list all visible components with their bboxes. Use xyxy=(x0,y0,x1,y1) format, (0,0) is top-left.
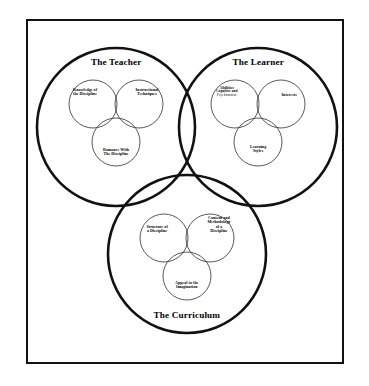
inner-circle-interests xyxy=(257,80,305,128)
inner-circle-appeal-to-the-imagination xyxy=(163,252,211,300)
inner-circle-group xyxy=(69,80,305,300)
major-circle-group xyxy=(37,48,337,333)
inner-circle-romance-with-the-discipline xyxy=(92,118,140,166)
inner-circle-instructional-techniques xyxy=(115,80,163,128)
inner-circle-abilities xyxy=(211,80,259,128)
venn-diagram-graphic xyxy=(0,0,369,386)
inner-circle-learning-styles xyxy=(234,118,282,166)
inner-circle-content-and-methodology-of-a-discipline xyxy=(186,214,234,262)
inner-circle-knowledge-of-the-discipline xyxy=(69,80,117,128)
diagram-page: The TeacherKnowledge of the DisciplineIn… xyxy=(0,0,369,386)
inner-circle-structure-of-a-discipline xyxy=(140,214,188,262)
major-circle-learner xyxy=(179,48,337,206)
major-circle-teacher xyxy=(37,48,195,206)
major-circle-curriculum xyxy=(108,175,266,333)
